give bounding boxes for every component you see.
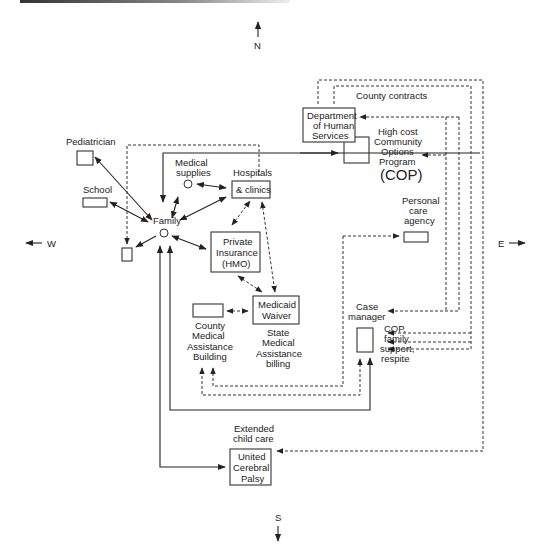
svg-text:Services: Services: [312, 130, 349, 141]
compass-west: W: [47, 238, 56, 249]
compass: N W E S: [26, 22, 525, 541]
node-school: School: [83, 184, 112, 207]
family-label: Family: [153, 215, 181, 226]
node-ucp: Extended child care United Cerebral Pals…: [230, 423, 274, 485]
svg-text:Cerebral: Cerebral: [233, 462, 269, 473]
svg-text:Medical: Medical: [262, 337, 295, 348]
school-label: School: [83, 184, 112, 195]
svg-text:agency: agency: [404, 215, 435, 226]
svg-text:Palsy: Palsy: [241, 473, 264, 484]
svg-text:Waiver: Waiver: [262, 310, 291, 321]
compass-east: E: [498, 238, 504, 249]
pediatrician-label: Pediatrician: [66, 136, 116, 147]
svg-text:Medical: Medical: [192, 330, 225, 341]
svg-text:Insurance: Insurance: [216, 247, 258, 258]
svg-text:Private: Private: [223, 236, 253, 247]
node-county-building: County Medical Assistance Building: [187, 304, 233, 362]
hospitals-box-label: & clinics: [236, 184, 271, 195]
compass-south: S: [275, 512, 281, 523]
svg-text:United: United: [238, 451, 265, 462]
compass-north: N: [254, 40, 261, 51]
svg-text:billing: billing: [266, 358, 290, 369]
hospitals-label: Hospitals: [233, 167, 272, 178]
svg-text:manager: manager: [348, 311, 386, 322]
node-unlabeled: [122, 248, 132, 261]
node-hospitals: Hospitals & clinics: [232, 167, 272, 198]
service-network-diagram: N W E S Pediatrician School Family Medic…: [0, 0, 553, 560]
node-personal-care: Personal care agency: [402, 195, 440, 242]
node-private-insurance: Private Insurance (HMO): [211, 232, 260, 272]
node-medicaid-waiver: Medicaid Waiver State Medical Assistance…: [253, 296, 302, 369]
county-contracts-label: County contracts: [356, 90, 428, 101]
medical-supplies-label-2: supplies: [176, 167, 211, 178]
svg-text:(COP): (COP): [380, 166, 423, 183]
svg-text:(HMO): (HMO): [222, 258, 251, 269]
node-medical-supplies: Medical supplies: [175, 157, 211, 188]
svg-text:respite: respite: [381, 353, 410, 364]
node-pediatrician: Pediatrician: [66, 136, 116, 165]
node-family: Family: [153, 215, 181, 237]
node-cop: High cost Community Options Program (COP…: [374, 126, 423, 183]
svg-text:child care: child care: [233, 433, 274, 444]
svg-text:Medicaid: Medicaid: [258, 299, 296, 310]
svg-text:Building: Building: [193, 351, 227, 362]
